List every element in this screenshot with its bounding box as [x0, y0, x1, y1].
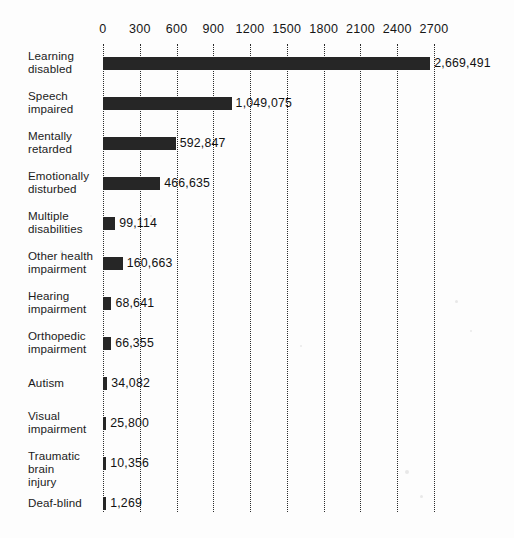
x-axis-tick-1500: 1500 [272, 22, 301, 36]
category-label: Learningdisabled [28, 49, 102, 75]
bar-value-label: 10,356 [110, 457, 149, 470]
bar [103, 137, 176, 150]
category-label: Orthopedicimpairment [28, 329, 102, 355]
chart-row: Multipledisabilities99,114 [0, 203, 514, 243]
chart-row: Learningdisabled2,669,491 [0, 43, 514, 83]
category-label: Emotionallydisturbed [28, 169, 102, 195]
bar [103, 497, 106, 510]
x-axis-tick-1200: 1200 [236, 22, 265, 36]
x-axis-tick-labels: 0300600900120015001800210024002700 [0, 0, 514, 44]
x-axis-tick-0: 0 [99, 22, 106, 36]
bar-value-label: 34,082 [111, 377, 150, 390]
chart-row: Orthopedicimpairment66,355 [0, 323, 514, 363]
chart-row: Autism34,082 [0, 363, 514, 403]
category-label-line2: impairment [28, 262, 102, 275]
chart-row: Mentallyretarded592,847 [0, 123, 514, 163]
bar-value-label: 2,669,491 [434, 57, 491, 70]
bar [103, 257, 123, 270]
bar [103, 97, 232, 110]
category-label: Hearingimpairment [28, 289, 102, 315]
category-label-line2: impairment [28, 422, 102, 435]
bar-value-label: 99,114 [119, 217, 157, 230]
x-axis-tick-2400: 2400 [383, 22, 412, 36]
bar [103, 417, 106, 430]
bar-value-label: 1,049,075 [236, 97, 293, 110]
x-axis-tick-900: 900 [202, 22, 224, 36]
category-label-line2: impaired [28, 102, 102, 115]
bar [103, 337, 111, 350]
bar-value-label: 160,663 [127, 257, 173, 270]
chart-row: Deaf-blind1,269 [0, 483, 514, 523]
chart-row: Traumatic braininjury10,356 [0, 443, 514, 483]
chart-row: Speechimpaired1,049,075 [0, 83, 514, 123]
chart-row: Emotionallydisturbed466,635 [0, 163, 514, 203]
category-label-line2: disturbed [28, 182, 102, 195]
category-label-line2: disabled [28, 62, 102, 75]
bar-chart: 0300600900120015001800210024002700 Learn… [0, 0, 514, 538]
category-label: Deaf-blind [28, 496, 102, 509]
bar-value-label: 25,800 [110, 417, 149, 430]
category-label-line2: retarded [28, 142, 102, 155]
chart-row: Hearingimpairment68,641 [0, 283, 514, 323]
chart-row: Other healthimpairment160,663 [0, 243, 514, 283]
category-label: Multipledisabilities [28, 209, 102, 235]
bar [103, 177, 160, 190]
category-label-line2: impairment [28, 342, 102, 355]
x-axis-tick-600: 600 [166, 22, 188, 36]
x-axis-tick-2700: 2700 [419, 22, 448, 36]
bar [103, 217, 115, 230]
x-axis-tick-2100: 2100 [346, 22, 375, 36]
category-label: Other healthimpairment [28, 249, 102, 275]
bar [103, 297, 111, 310]
category-label-line2: impairment [28, 302, 102, 315]
x-axis-tick-1800: 1800 [309, 22, 338, 36]
category-label: Speechimpaired [28, 89, 102, 115]
bar-value-label: 1,269 [110, 497, 142, 510]
bar [103, 57, 430, 70]
category-label: Mentallyretarded [28, 129, 102, 155]
bar-value-label: 66,355 [115, 337, 154, 350]
chart-row: Visualimpairment25,800 [0, 403, 514, 443]
x-axis-tick-300: 300 [129, 22, 151, 36]
bar-value-label: 466,635 [164, 177, 210, 190]
bar [103, 377, 107, 390]
category-label: Autism [28, 376, 102, 389]
category-label-line2: disabilities [28, 222, 102, 235]
category-label: Visualimpairment [28, 409, 102, 435]
bar [103, 457, 106, 470]
bar-value-label: 68,641 [115, 297, 154, 310]
bar-value-label: 592,847 [180, 137, 226, 150]
